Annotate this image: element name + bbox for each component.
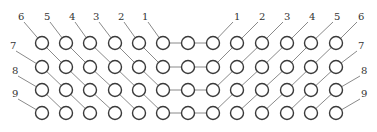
left-label-4: 4 — [69, 11, 75, 22]
node-r4-c3 — [84, 107, 97, 120]
node-r3-c9 — [231, 84, 244, 97]
chain-lattice-diagram: 123456789123456789 — [0, 0, 377, 132]
chain-8-leader — [18, 76, 36, 87]
left-label-1: 1 — [142, 11, 148, 22]
chain-4-link — [242, 71, 257, 85]
node-r4-c2 — [60, 107, 73, 120]
node-r1-c8 — [207, 37, 220, 50]
chain-5-link — [292, 48, 307, 63]
node-r3-c2 — [60, 84, 73, 97]
chain-5-link — [120, 94, 135, 108]
right-label-7: 7 — [358, 40, 364, 51]
chain-6-leader — [24, 22, 38, 38]
chain-7-leader — [341, 51, 357, 63]
chain-2-leader — [124, 22, 135, 38]
right-label-2: 2 — [259, 11, 265, 22]
node-r1-c7 — [182, 37, 195, 50]
chain-7-link — [316, 71, 331, 85]
node-r1-c11 — [281, 37, 294, 50]
node-r1-c1 — [36, 37, 49, 50]
chain-6-link — [95, 94, 110, 108]
node-r2-c11 — [281, 61, 294, 74]
left-label-2: 2 — [118, 11, 124, 22]
node-r4-c12 — [305, 107, 318, 120]
node-r1-c13 — [330, 37, 343, 50]
node-r2-c6 — [157, 61, 170, 74]
node-r3-c6 — [157, 84, 170, 97]
chain-5-link — [242, 94, 257, 108]
node-r1-c3 — [84, 37, 97, 50]
node-r4-c8 — [207, 107, 220, 120]
chain-6-link — [267, 94, 282, 108]
node-r2-c9 — [231, 61, 244, 74]
node-r3-c12 — [305, 84, 318, 97]
node-r2-c8 — [207, 61, 220, 74]
chain-3-leader — [267, 22, 283, 38]
chain-5-leader — [316, 22, 333, 39]
node-r1-c4 — [109, 37, 122, 50]
right-label-1: 1 — [234, 11, 240, 22]
node-r4-c6 — [157, 107, 170, 120]
chain-9-leader — [18, 99, 36, 110]
node-r1-c9 — [231, 37, 244, 50]
node-r3-c8 — [207, 84, 220, 97]
left-label-9: 9 — [12, 88, 18, 99]
left-label-8: 8 — [12, 65, 18, 76]
chain-9-leader — [342, 99, 360, 110]
chain-6-link — [292, 71, 307, 85]
chain-7-link — [47, 71, 62, 85]
chain-7-leader — [16, 51, 36, 64]
node-r1-c10 — [256, 37, 269, 50]
chain-2-leader — [242, 22, 258, 38]
chain-4-link — [120, 71, 135, 85]
chain-1-leader — [148, 22, 159, 38]
chain-8-leader — [342, 76, 360, 87]
chain-3-link — [120, 48, 135, 63]
chain-4-leader — [292, 22, 308, 38]
chain-4-leader — [75, 22, 86, 38]
node-r2-c10 — [256, 61, 269, 74]
chain-7-link — [292, 94, 307, 108]
chain-4-link — [144, 94, 159, 108]
chain-5-link — [71, 48, 86, 63]
right-label-5: 5 — [334, 11, 340, 22]
chain-3-link — [144, 71, 159, 85]
chain-6-link — [316, 48, 332, 63]
node-r1-c2 — [60, 37, 73, 50]
right-label-8: 8 — [361, 65, 367, 76]
chain-3-leader — [99, 22, 111, 38]
node-r3-c7 — [182, 84, 195, 97]
node-r3-c13 — [330, 84, 343, 97]
chain-5-link — [267, 71, 282, 85]
chain-2-link — [144, 48, 159, 63]
node-r1-c12 — [305, 37, 318, 50]
node-r3-c5 — [133, 84, 146, 97]
node-r4-c7 — [182, 107, 195, 120]
node-r3-c3 — [84, 84, 97, 97]
circle-nodes — [36, 37, 343, 120]
node-r2-c12 — [305, 61, 318, 74]
node-r4-c13 — [330, 107, 343, 120]
chain-1-leader — [217, 22, 233, 38]
node-r2-c7 — [182, 61, 195, 74]
chain-5-link — [95, 71, 110, 85]
chain-7-link — [71, 94, 86, 108]
chain-3-link — [218, 71, 233, 85]
node-r2-c1 — [36, 61, 49, 74]
node-r2-c4 — [109, 61, 122, 74]
node-r4-c1 — [36, 107, 49, 120]
chain-6-leader — [341, 22, 357, 38]
chain-2-link — [218, 48, 233, 63]
chain-5-leader — [50, 22, 62, 38]
chain-6-link — [47, 48, 62, 63]
left-label-3: 3 — [93, 11, 99, 22]
node-r4-c11 — [281, 107, 294, 120]
node-r1-c5 — [133, 37, 146, 50]
node-r3-c4 — [109, 84, 122, 97]
node-r3-c1 — [36, 84, 49, 97]
chain-4-link — [218, 94, 233, 108]
left-label-5: 5 — [44, 11, 50, 22]
right-label-3: 3 — [284, 11, 290, 22]
node-r4-c5 — [133, 107, 146, 120]
right-label-9: 9 — [361, 88, 367, 99]
